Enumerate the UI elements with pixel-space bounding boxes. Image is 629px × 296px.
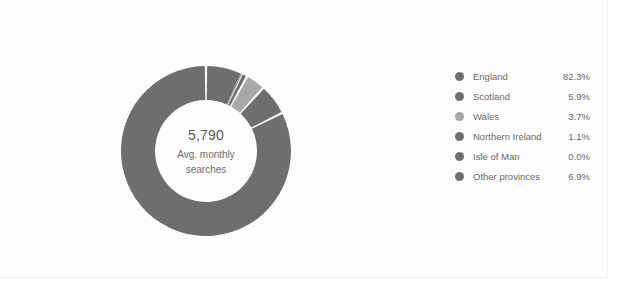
legend-row[interactable]: Isle of Man0.0%	[455, 146, 590, 166]
legend-swatch-icon	[455, 92, 464, 101]
legend-label: England	[473, 71, 560, 82]
donut-chart-svg	[121, 66, 291, 236]
legend-swatch-icon	[455, 152, 464, 161]
chart-card: 5,790 Avg. monthly searches England82.3%…	[0, 0, 608, 278]
legend-row[interactable]: Wales3.7%	[455, 106, 590, 126]
legend-value: 6.9%	[560, 171, 590, 182]
legend-value: 0.0%	[560, 151, 590, 162]
legend-row[interactable]: England82.3%	[455, 66, 590, 86]
donut-slice[interactable]	[207, 66, 241, 104]
donut-slice-group	[121, 66, 291, 236]
legend-swatch-icon	[455, 112, 464, 121]
legend-value: 3.7%	[560, 111, 590, 122]
legend-row[interactable]: Scotland5.9%	[455, 86, 590, 106]
legend-label: Isle of Man	[473, 151, 560, 162]
legend-row[interactable]: Northern Ireland1.1%	[455, 126, 590, 146]
legend-row[interactable]: Other provinces6.9%	[455, 166, 590, 186]
legend-swatch-icon	[455, 132, 464, 141]
legend-label: Scotland	[473, 91, 560, 102]
legend-value: 1.1%	[560, 131, 590, 142]
chart-legend: England82.3%Scotland5.9%Wales3.7%Norther…	[455, 66, 590, 186]
donut-chart[interactable]: 5,790 Avg. monthly searches	[121, 66, 291, 236]
legend-swatch-icon	[455, 72, 464, 81]
legend-value: 5.9%	[560, 91, 590, 102]
legend-label: Wales	[473, 111, 560, 122]
legend-swatch-icon	[455, 172, 464, 181]
legend-label: Other provinces	[473, 171, 560, 182]
legend-label: Northern Ireland	[473, 131, 560, 142]
legend-value: 82.3%	[560, 71, 590, 82]
